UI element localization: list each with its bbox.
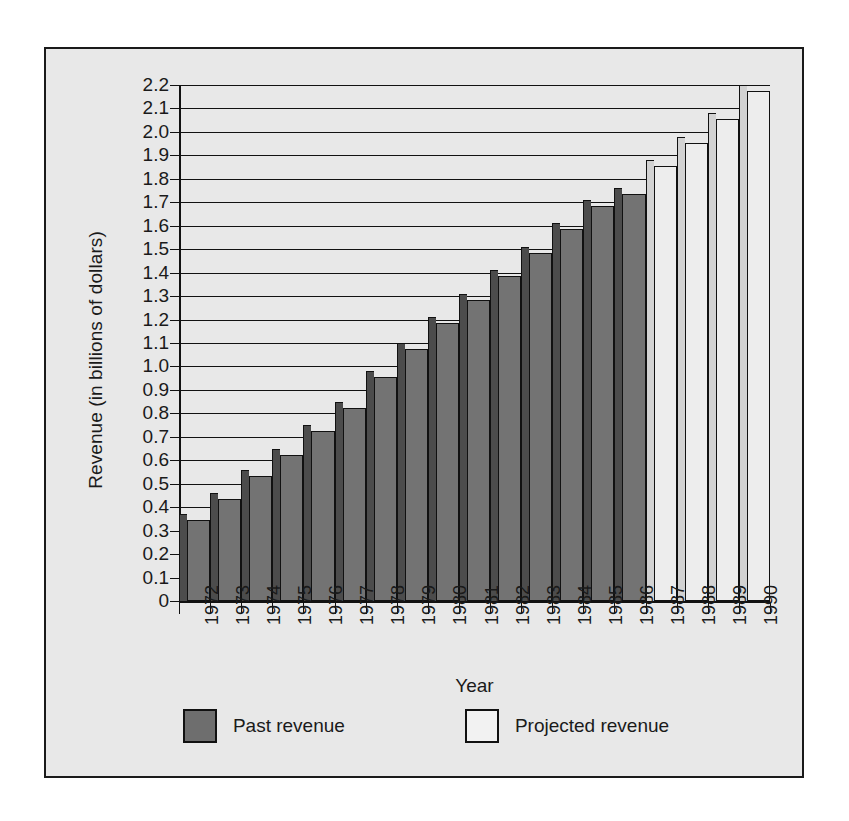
y-axis-title: Revenue (in billions of dollars) xyxy=(85,170,107,550)
y-axis-tick-label: 1.3 xyxy=(143,285,169,307)
y-axis-tick xyxy=(170,320,179,321)
x-axis-tick xyxy=(179,603,180,614)
bar-1979 xyxy=(397,343,428,601)
y-axis-tick-label: 0.8 xyxy=(143,402,169,424)
y-axis-tick xyxy=(170,554,179,555)
x-axis-tick-label: 1984 xyxy=(575,585,596,625)
bar-1990 xyxy=(739,85,770,601)
y-axis-tick-label: 1.5 xyxy=(143,238,169,260)
x-axis-tick-label: 1972 xyxy=(202,585,223,625)
y-axis-tick xyxy=(170,202,179,203)
x-axis-tick-label: 1988 xyxy=(699,585,720,625)
bar-1978 xyxy=(366,371,397,601)
bar-side-face xyxy=(739,85,747,601)
bar-side-face xyxy=(241,470,249,601)
bar-side-face xyxy=(677,137,685,601)
y-axis-tick-label: 0 xyxy=(158,590,169,612)
bar-front-face xyxy=(249,476,272,601)
bar-side-face xyxy=(428,317,436,601)
legend-swatch-past xyxy=(183,709,217,743)
y-axis-tick xyxy=(170,578,179,579)
y-axis-tick-label: 2.1 xyxy=(143,97,169,119)
x-axis-tick-label: 1973 xyxy=(233,585,254,625)
y-axis-tick xyxy=(170,179,179,180)
y-axis-tick-label: 1.4 xyxy=(143,262,169,284)
y-axis-tick-label: 0.4 xyxy=(143,496,169,518)
plot-area: 00.10.20.30.40.50.60.70.80.91.01.11.21.3… xyxy=(179,85,770,603)
bar-side-face xyxy=(708,113,716,601)
bar-1986 xyxy=(614,188,645,601)
bar-1983 xyxy=(521,247,552,601)
y-axis-tick xyxy=(170,460,179,461)
y-axis-tick-label: 0.7 xyxy=(143,426,169,448)
x-axis-tick-label: 1990 xyxy=(761,585,782,625)
x-axis-tick-label: 1982 xyxy=(513,585,534,625)
y-axis-tick xyxy=(170,132,179,133)
bar-front-face xyxy=(405,349,428,601)
chart-legend: Past revenueProjected revenue xyxy=(46,709,806,743)
bar-1988 xyxy=(677,137,708,601)
y-axis-tick xyxy=(170,343,179,344)
gridline xyxy=(179,85,770,86)
bar-side-face xyxy=(490,270,498,601)
y-axis-tick xyxy=(170,108,179,109)
bar-front-face xyxy=(343,408,366,601)
y-axis-tick-label: 0.1 xyxy=(143,567,169,589)
y-axis-tick-label: 1.1 xyxy=(143,332,169,354)
bar-side-face xyxy=(397,343,405,601)
y-axis-tick xyxy=(170,531,179,532)
y-axis-tick xyxy=(170,85,179,86)
bar-1976 xyxy=(303,425,334,601)
bar-side-face xyxy=(521,247,529,601)
bar-side-face xyxy=(335,402,343,601)
y-axis-tick-label: 1.6 xyxy=(143,215,169,237)
bar-1975 xyxy=(272,449,303,601)
x-axis-tick-label: 1989 xyxy=(730,585,751,625)
y-axis-tick xyxy=(170,249,179,250)
y-axis-tick xyxy=(170,437,179,438)
bar-side-face xyxy=(179,514,187,601)
y-axis-tick-label: 0.3 xyxy=(143,520,169,542)
bar-1985 xyxy=(583,200,614,601)
legend-item-proj: Projected revenue xyxy=(465,709,669,743)
y-axis-tick xyxy=(170,155,179,156)
bar-front-face xyxy=(747,91,770,601)
y-axis-tick-label: 0.2 xyxy=(143,543,169,565)
bar-front-face xyxy=(498,276,521,601)
bar-front-face xyxy=(591,206,614,601)
x-axis-title: Year xyxy=(179,675,770,697)
x-axis-tick-label: 1976 xyxy=(326,585,347,625)
bar-front-face xyxy=(467,300,490,601)
y-axis-tick xyxy=(170,296,179,297)
bar-front-face xyxy=(685,143,708,601)
x-axis-tick-label: 1980 xyxy=(450,585,471,625)
bar-side-face xyxy=(583,200,591,601)
y-axis-tick-label: 0.9 xyxy=(143,379,169,401)
y-axis-tick-label: 1.9 xyxy=(143,144,169,166)
x-axis-tick-label: 1986 xyxy=(637,585,658,625)
y-axis-tick xyxy=(170,413,179,414)
y-axis-tick xyxy=(170,226,179,227)
y-axis-tick-label: 0.6 xyxy=(143,449,169,471)
chart-panel: Revenue (in billions of dollars) 00.10.2… xyxy=(44,47,804,778)
y-axis-tick xyxy=(170,601,179,602)
y-axis-tick-label: 0.5 xyxy=(143,473,169,495)
y-axis-tick-label: 2.2 xyxy=(143,74,169,96)
y-axis-tick-label: 1.8 xyxy=(143,168,169,190)
y-axis-tick xyxy=(170,507,179,508)
y-axis-tick xyxy=(170,484,179,485)
bar-front-face xyxy=(374,377,397,601)
legend-label: Projected revenue xyxy=(515,715,669,737)
x-axis-tick-label: 1979 xyxy=(419,585,440,625)
legend-item-past: Past revenue xyxy=(183,709,345,743)
x-axis-tick-label: 1987 xyxy=(668,585,689,625)
x-axis-tick-label: 1974 xyxy=(264,585,285,625)
bar-front-face xyxy=(654,166,677,601)
gridline xyxy=(179,132,770,133)
bar-side-face xyxy=(614,188,622,601)
bar-front-face xyxy=(560,229,583,601)
bar-front-face xyxy=(280,455,303,601)
bar-1987 xyxy=(646,160,677,601)
bar-front-face xyxy=(716,119,739,601)
x-axis-tick-label: 1983 xyxy=(544,585,565,625)
